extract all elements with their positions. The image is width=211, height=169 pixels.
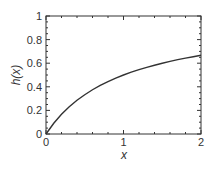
series-line-h — [46, 55, 201, 134]
y-tick-labels: 00.20.40.60.81 — [27, 10, 42, 140]
x-axis-label: x — [120, 148, 128, 162]
y-tick-label: 0.8 — [27, 34, 42, 46]
x-tick-label: 1 — [120, 136, 126, 148]
y-tick-label: 0.6 — [27, 57, 42, 69]
x-tick-labels: 012 — [43, 136, 204, 148]
y-axis-label: h(x) — [9, 65, 23, 86]
x-tick-label: 0 — [43, 136, 49, 148]
y-tick-label: 0 — [36, 128, 42, 140]
y-tick-label: 1 — [36, 10, 42, 22]
x-tick-label: 2 — [198, 136, 204, 148]
series-group — [46, 55, 201, 134]
y-tick-label: 0.4 — [27, 81, 42, 93]
y-tick-label: 0.2 — [27, 104, 42, 116]
chart: 012 00.20.40.60.81 x h(x) — [0, 0, 211, 169]
